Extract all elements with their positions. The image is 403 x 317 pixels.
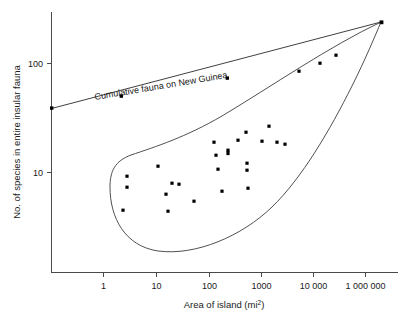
cumulative-fauna-line-label: Cumulative fauna on New Guinea xyxy=(94,70,228,102)
x-tick-label-2: 100 xyxy=(202,281,217,291)
data-point xyxy=(236,139,239,142)
data-point xyxy=(283,143,286,146)
x-tick-label-3: 1000 xyxy=(251,281,271,291)
data-point xyxy=(125,175,128,178)
data-point xyxy=(246,187,249,190)
data-point xyxy=(177,183,180,186)
data-point xyxy=(166,210,169,213)
x-tick-labels: 1 10 100 1000 10 000 1 000 000 xyxy=(101,281,386,291)
y-axis-title: No. of species in entire insular fauna xyxy=(11,64,22,218)
data-point xyxy=(297,70,300,73)
data-point xyxy=(245,162,248,165)
y-tick-label-1: 10 xyxy=(33,168,43,178)
x-tick-label-0: 1 xyxy=(101,281,106,291)
x-axis-title-tail: ) xyxy=(261,299,264,310)
data-point xyxy=(121,209,124,212)
data-point xyxy=(226,149,229,152)
data-point xyxy=(216,168,219,171)
data-point xyxy=(214,154,217,157)
data-point xyxy=(156,165,159,168)
line-marker-origin xyxy=(50,106,53,109)
data-point xyxy=(125,186,128,189)
x-axis-title-base: Area of island (mi xyxy=(184,299,258,310)
data-point xyxy=(244,131,247,134)
scatter-points-group xyxy=(121,54,337,213)
data-point xyxy=(318,62,321,65)
data-point xyxy=(226,152,229,156)
data-point xyxy=(260,140,263,143)
data-point xyxy=(192,200,195,203)
x-tick-label-5: 1 000 000 xyxy=(345,281,385,291)
x-axis-title: Area of island (mi2) xyxy=(184,299,265,311)
y-tick-label-0: 100 xyxy=(28,59,43,69)
axes-group xyxy=(51,12,398,273)
data-point xyxy=(212,141,215,144)
data-point xyxy=(334,54,337,57)
x-tick-label-1: 10 xyxy=(151,281,161,291)
data-point xyxy=(164,193,167,196)
chart-canvas: 1 10 100 1000 10 000 1 000 000 100 10 Ar… xyxy=(0,0,403,317)
line-marker-1 xyxy=(120,94,123,97)
line-marker-3 xyxy=(380,20,384,24)
data-point xyxy=(267,125,270,128)
figure-container: 1 10 100 1000 10 000 1 000 000 100 10 Ar… xyxy=(0,0,403,317)
cluster-envelope-outline xyxy=(110,22,381,252)
data-point xyxy=(275,141,278,144)
data-point xyxy=(245,169,248,172)
x-tick-label-4: 10 000 xyxy=(300,281,328,291)
y-tick-labels: 100 10 xyxy=(28,59,43,178)
data-point xyxy=(170,182,173,185)
data-point xyxy=(220,190,223,193)
line-marker-2 xyxy=(226,76,229,79)
